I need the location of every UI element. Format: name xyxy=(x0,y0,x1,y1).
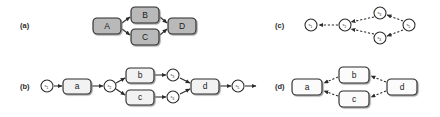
node-b-s2-sub: 2 xyxy=(110,85,112,89)
node-b-s4-sub: 4 xyxy=(173,96,175,100)
box-b-d[interactable]: d xyxy=(191,79,219,94)
node-b-s3-sub: 3 xyxy=(173,74,175,78)
panel-label-b: (b) xyxy=(20,82,30,91)
panel-label-d: (d) xyxy=(275,82,285,91)
node-b-s5-sub: 5 xyxy=(238,85,240,89)
panel-label-a: (a) xyxy=(20,21,30,30)
box-d-a-label: a xyxy=(305,82,310,92)
node-c-s5[interactable]: s5 xyxy=(403,19,415,31)
node-c-s2-sub: 2 xyxy=(345,24,347,28)
box-b-c[interactable]: c xyxy=(126,90,154,105)
node-b-s4[interactable]: s4 xyxy=(167,91,179,103)
box-d-d[interactable]: d xyxy=(387,79,417,95)
node-c-s4-sub: 4 xyxy=(380,37,382,41)
box-a-D-label: D xyxy=(179,21,185,31)
box-b-d-label: d xyxy=(203,81,208,91)
figure-root: (a)ABCD(b)abcds1s2s3s4s5(c)s1s2s3s4s5(d)… xyxy=(0,0,440,117)
node-b-s1[interactable]: s1 xyxy=(41,80,53,92)
box-a-B-label: B xyxy=(142,10,148,20)
box-a-A[interactable]: A xyxy=(93,18,121,34)
box-d-a[interactable]: a xyxy=(292,79,322,95)
box-b-b[interactable]: b xyxy=(126,68,154,83)
box-a-C-label: C xyxy=(142,32,148,42)
figure-background xyxy=(0,0,440,117)
node-c-s5-sub: 5 xyxy=(409,24,411,28)
box-d-c[interactable]: c xyxy=(339,91,369,107)
box-b-a[interactable]: a xyxy=(63,79,91,94)
node-b-s3[interactable]: s3 xyxy=(167,69,179,81)
box-b-b-label: b xyxy=(138,70,143,80)
box-b-a-label: a xyxy=(75,81,80,91)
node-c-s2[interactable]: s2 xyxy=(339,19,351,31)
node-c-s3[interactable]: s3 xyxy=(374,7,386,19)
box-a-D[interactable]: D xyxy=(168,18,196,34)
node-c-s4[interactable]: s4 xyxy=(374,32,386,44)
box-d-d-label: d xyxy=(400,82,405,92)
box-a-C[interactable]: C xyxy=(131,29,159,45)
box-a-B[interactable]: B xyxy=(131,7,159,23)
node-b-s5[interactable]: s5 xyxy=(232,80,244,92)
node-c-s1-sub: 1 xyxy=(311,24,313,28)
node-b-s1-sub: 1 xyxy=(47,85,49,89)
node-c-s3-sub: 3 xyxy=(380,12,382,16)
node-c-s1[interactable]: s1 xyxy=(305,19,317,31)
box-d-b[interactable]: b xyxy=(339,67,369,83)
panel-label-c: (c) xyxy=(275,21,285,30)
box-a-A-label: A xyxy=(104,21,110,31)
node-b-s2[interactable]: s2 xyxy=(104,80,116,92)
box-d-b-label: b xyxy=(352,70,357,80)
